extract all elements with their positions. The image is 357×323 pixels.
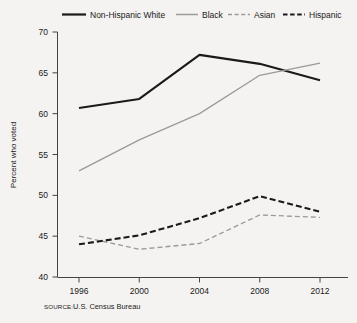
source-text: U.S. Census Bureau: [73, 302, 140, 311]
x-tick-label: 2012: [311, 286, 330, 296]
y-tick-label: 45: [39, 231, 49, 241]
y-tick-label: 60: [39, 109, 49, 119]
chart-figure: Non-Hispanic White Black Asian Hispanic: [0, 0, 357, 323]
y-tick-label: 50: [39, 190, 49, 200]
x-tick-label: 1996: [70, 286, 89, 296]
y-axis-title: Percent who voted: [9, 122, 18, 188]
y-tick-label: 40: [39, 272, 49, 282]
y-tick-label: 65: [39, 68, 49, 78]
legend-label-black: Black: [202, 10, 224, 20]
chart-background: [0, 0, 357, 323]
y-tick-label: 55: [39, 150, 49, 160]
legend-label-hispanic: Hispanic: [309, 10, 342, 20]
x-tick-label: 2008: [250, 286, 269, 296]
source-note: SOURCE: U.S. Census Bureau: [44, 302, 140, 311]
source-prefix: SOURCE:: [44, 303, 73, 310]
legend-label-asian: Asian: [254, 10, 276, 20]
x-tick-label: 2004: [190, 286, 209, 296]
y-tick-label: 70: [39, 27, 49, 37]
legend-label-non-hispanic-white: Non-Hispanic White: [90, 10, 165, 20]
voting-turnout-line-chart: Non-Hispanic White Black Asian Hispanic: [0, 0, 357, 323]
x-tick-label: 2000: [130, 286, 149, 296]
